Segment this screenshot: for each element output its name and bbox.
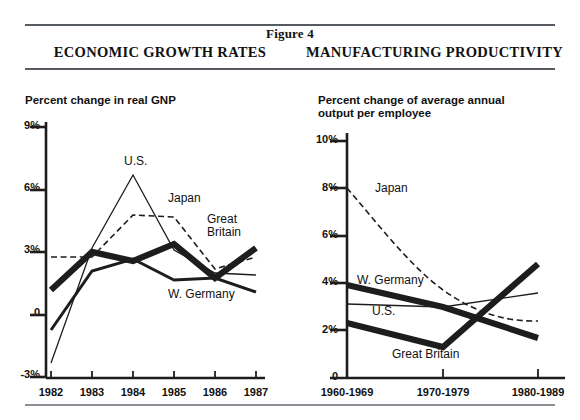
figure-page: Figure 4 ECONOMIC GROWTH RATES MANUFACTU… <box>0 0 580 420</box>
left-axes <box>30 122 265 378</box>
charts-svg-layer <box>0 0 580 420</box>
right-series <box>347 188 538 347</box>
right-series-japan <box>347 188 538 321</box>
bottom-rule <box>25 404 555 406</box>
left-series-great-britain <box>51 244 256 290</box>
left-series <box>51 175 256 363</box>
